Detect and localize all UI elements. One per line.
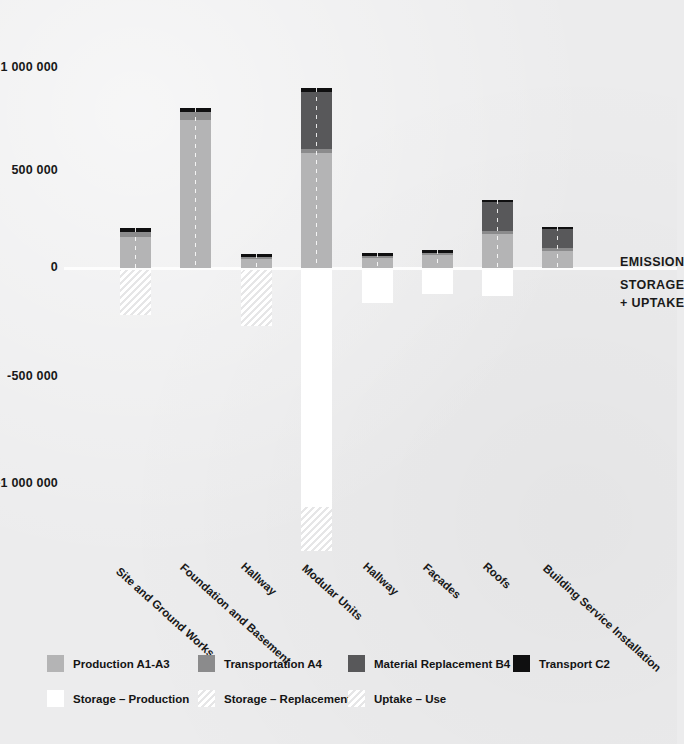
- legend-swatch-storage-replacement: [198, 690, 215, 707]
- legend-label-storage-replacement: Storage – Replacement: [224, 693, 351, 705]
- legend-label-uptake-use: Uptake – Use: [374, 693, 446, 705]
- legend-swatch-uptake-use: [348, 690, 365, 707]
- legend-item-transport-c2[interactable]: Transport C2: [513, 655, 610, 672]
- legend-item-transportation-a4[interactable]: Transportation A4: [198, 655, 322, 672]
- legend-swatch-material-replacement-b4: [348, 655, 365, 672]
- legend-swatch-transportation-a4: [198, 655, 215, 672]
- legend-item-production-a1-a3[interactable]: Production A1-A3: [47, 655, 170, 672]
- legend-label-transportation-a4: Transportation A4: [224, 658, 322, 670]
- legend-swatch-production-a1-a3: [47, 655, 64, 672]
- legend-item-uptake-use[interactable]: Uptake – Use: [348, 690, 446, 707]
- legend-swatch-storage-production: [47, 690, 64, 707]
- legend-label-storage-production: Storage – Production: [73, 693, 189, 705]
- legend-item-storage-replacement[interactable]: Storage – Replacement: [198, 690, 351, 707]
- legend-swatch-transport-c2: [513, 655, 530, 672]
- legend-label-transport-c2: Transport C2: [539, 658, 610, 670]
- legend-label-material-replacement-b4: Material Replacement B4: [374, 658, 510, 670]
- legend-item-material-replacement-b4[interactable]: Material Replacement B4: [348, 655, 510, 672]
- legend-label-production-a1-a3: Production A1-A3: [73, 658, 170, 670]
- legend-item-storage-production[interactable]: Storage – Production: [47, 690, 189, 707]
